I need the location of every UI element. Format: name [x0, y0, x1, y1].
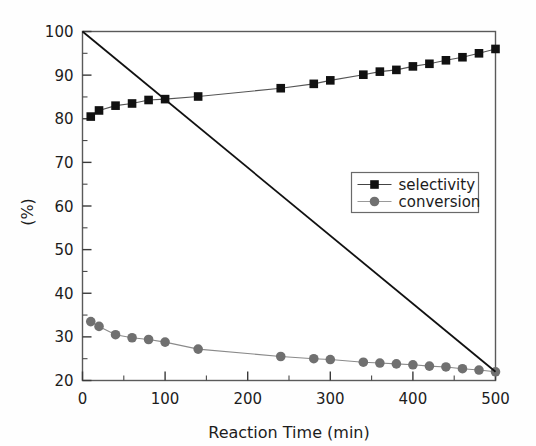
marker-circle [359, 357, 369, 367]
marker-square [144, 96, 153, 105]
marker-circle [375, 358, 385, 368]
marker-circle [193, 344, 203, 354]
marker-square [458, 53, 467, 62]
x-tick-label: 500 [481, 390, 510, 408]
y-tick-label: 30 [54, 328, 73, 346]
x-tick-label: 200 [233, 390, 262, 408]
y-tick-label: 90 [54, 67, 73, 85]
chart-figure: 2030405060708090100 0100200300400500 Rea… [0, 0, 536, 446]
marker-circle [276, 352, 286, 362]
marker-square [128, 99, 137, 108]
x-tick-label: 100 [151, 390, 180, 408]
y-tick-label: 50 [54, 241, 73, 259]
marker-circle [458, 364, 468, 374]
chart-legend[interactable]: selectivityconversion [352, 173, 481, 213]
marker-circle [425, 361, 435, 371]
y-tick-label: 60 [54, 198, 73, 216]
marker-square [475, 49, 484, 58]
legend-label-conversion: conversion [399, 193, 481, 211]
marker-circle [111, 330, 121, 340]
marker-circle [309, 354, 319, 364]
marker-circle [86, 317, 96, 327]
marker-circle [94, 322, 104, 332]
x-axis-title: Reaction Time (min) [208, 423, 369, 442]
x-tick-label: 400 [399, 390, 428, 408]
marker-square [309, 80, 318, 89]
marker-circle [326, 355, 336, 365]
legend-label-selectivity: selectivity [399, 176, 476, 194]
y-tick-label: 70 [54, 154, 73, 172]
legend-marker-circle [370, 197, 380, 207]
marker-square [425, 59, 434, 68]
marker-circle [160, 337, 170, 347]
marker-circle [392, 359, 402, 369]
marker-circle [474, 365, 484, 375]
marker-square [392, 66, 401, 75]
marker-circle [144, 335, 154, 345]
marker-square [326, 76, 335, 85]
y-tick-label: 100 [45, 23, 74, 41]
y-tick-label: 20 [54, 372, 73, 390]
marker-square [194, 92, 203, 101]
x-tick-label: 0 [78, 390, 88, 408]
legend-marker-square [370, 180, 379, 189]
y-axis-title: (%) [18, 198, 37, 226]
y-tick-label: 80 [54, 110, 73, 128]
marker-square [111, 101, 120, 110]
chart-canvas: 2030405060708090100 0100200300400500 Rea… [0, 0, 536, 446]
marker-square [442, 56, 451, 65]
marker-square [376, 67, 385, 76]
marker-square [86, 112, 95, 121]
marker-square [409, 62, 418, 71]
y-tick-label: 40 [54, 285, 73, 303]
marker-circle [441, 362, 451, 372]
x-tick-label: 300 [316, 390, 345, 408]
marker-square [95, 106, 104, 115]
marker-square [276, 84, 285, 93]
marker-circle [408, 360, 418, 370]
marker-circle [127, 333, 137, 343]
marker-square [491, 45, 500, 54]
marker-square [359, 70, 368, 79]
